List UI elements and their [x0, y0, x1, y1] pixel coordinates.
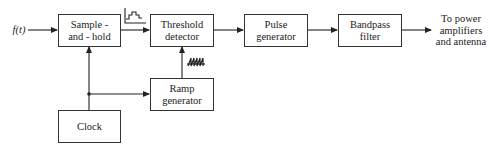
block-label-line2: generator [256, 31, 296, 43]
bandpass-filter-block: Bandpass filter [338, 14, 402, 47]
block-label-line2: detector [161, 31, 204, 43]
clock-block: Clock [58, 110, 121, 143]
staircase-waveform-icon [125, 8, 146, 23]
block-label-line1: Clock [77, 121, 102, 133]
pulse-generator-block: Pulse generator [244, 14, 308, 47]
block-label-line1: Sample - [68, 19, 111, 31]
output-label-line2: amplifiers [432, 25, 490, 37]
block-label-line2: filter [350, 31, 390, 43]
block-label-line2: and - hold [68, 31, 111, 43]
threshold-detector-block: Threshold detector [150, 14, 214, 47]
block-label-line1: Ramp [162, 83, 202, 95]
ramp-generator-block: Ramp generator [150, 78, 214, 111]
input-signal-label: f(t) [9, 24, 29, 36]
output-label-line1: To power [432, 13, 490, 25]
output-label-line3: and antenna [432, 36, 490, 48]
block-label-line1: Bandpass [350, 19, 390, 31]
junction-dot [87, 92, 91, 96]
output-destination-label: To power amplifiers and antenna [432, 13, 490, 48]
block-label-line1: Pulse [256, 19, 296, 31]
block-label-line1: Threshold [161, 19, 204, 31]
sample-and-hold-block: Sample - and - hold [58, 14, 121, 47]
sawtooth-waveform-icon [187, 58, 205, 66]
block-label-line2: generator [162, 95, 202, 107]
